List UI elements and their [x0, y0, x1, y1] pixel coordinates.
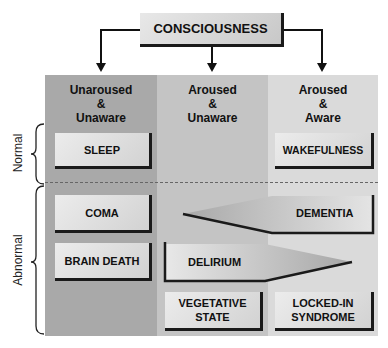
wakefulness-box: WAKEFULNESS: [275, 133, 374, 169]
brain-death-box: BRAIN DEATH: [55, 243, 152, 281]
arrowheads: [96, 63, 327, 72]
locked-in-syndrome-box: LOCKED-IN SYNDROME: [275, 292, 374, 331]
brace-icon: [31, 124, 44, 334]
box-line: VEGETATIVE: [178, 296, 246, 310]
consciousness-box: CONSCIOUSNESS: [140, 13, 284, 47]
coma-box: COMA: [55, 195, 152, 233]
box-line: SYNDROME: [291, 310, 355, 324]
row-label-abnormal: Abnormal: [11, 230, 25, 290]
box-line: LOCKED-IN: [292, 296, 353, 310]
delirium-label: DELIRIUM: [188, 256, 241, 268]
row-label-normal: Normal: [11, 133, 25, 173]
dementia-label: DEMENTIA: [296, 207, 353, 219]
sleep-box: SLEEP: [55, 133, 152, 169]
vegetative-state-box: VEGETATIVE STATE: [165, 292, 263, 331]
box-line: STATE: [195, 310, 229, 324]
